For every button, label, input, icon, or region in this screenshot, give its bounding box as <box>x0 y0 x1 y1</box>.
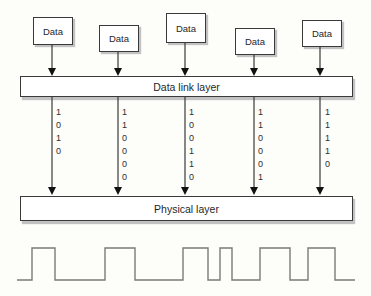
protocol-layers-diagram: Data Data Data Data Data Data link layer… <box>0 0 371 296</box>
down-arrow-5 <box>316 97 324 195</box>
signal-waveform <box>17 248 355 280</box>
top-arrow-2 <box>114 52 122 76</box>
down-arrow-1 <box>48 97 56 195</box>
down-arrow-4 <box>250 97 258 195</box>
down-arrow-2 <box>114 97 122 195</box>
down-arrow-3 <box>181 97 189 195</box>
top-arrow-5 <box>316 46 324 76</box>
top-arrow-1 <box>48 44 56 76</box>
diagram-lines <box>0 0 371 296</box>
top-arrow-3 <box>181 42 189 76</box>
top-arrow-4 <box>250 55 258 76</box>
